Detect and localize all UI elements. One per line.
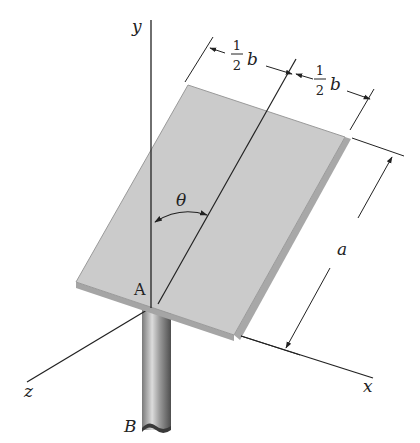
fraction-numerator: 1 xyxy=(316,63,324,78)
extension-line-a-top xyxy=(352,138,404,156)
z-axis-label: z xyxy=(23,381,34,401)
dim-arrow-right-b xyxy=(347,91,370,99)
dim-arrow-a-top xyxy=(358,157,392,218)
fraction-variable: b xyxy=(247,49,258,69)
dim-arrow-left-a xyxy=(210,48,225,53)
length-a-label: a xyxy=(337,239,347,259)
dim-arrow-a-bottom xyxy=(286,268,330,348)
y-axis-label: y xyxy=(131,16,142,36)
fraction-variable: b xyxy=(330,74,341,94)
extension-line-right xyxy=(350,89,374,130)
point-b-label: B xyxy=(123,416,137,436)
fraction-numerator: 1 xyxy=(233,38,241,53)
point-a-label: A xyxy=(133,280,146,299)
dim-arrow-right-a xyxy=(296,74,313,79)
theta-label: θ xyxy=(176,190,186,210)
shaft xyxy=(142,305,171,433)
fraction-denominator: 2 xyxy=(233,58,241,73)
fraction-denominator: 2 xyxy=(316,83,324,98)
z-axis xyxy=(27,307,152,382)
dim-arrow-left-b xyxy=(266,66,292,74)
half-b-right-label: 1 2 b xyxy=(314,63,341,98)
plate xyxy=(76,85,351,341)
half-b-left-label: 1 2 b xyxy=(231,38,258,73)
diagram-canvas: y x z A B a θ 1 2 b 1 2 b xyxy=(0,0,420,443)
extension-line-left xyxy=(185,37,213,82)
x-axis-label: x xyxy=(363,376,373,396)
